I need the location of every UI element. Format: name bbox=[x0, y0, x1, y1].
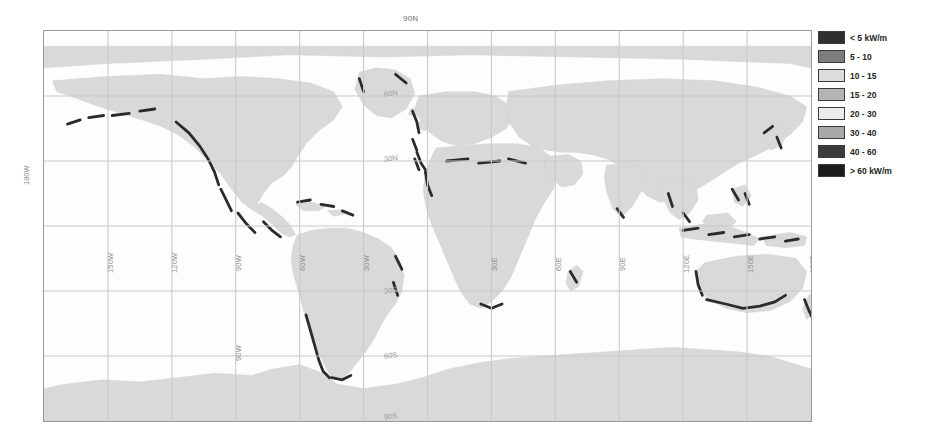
wave-energy-legend: < 5 kW/m 5 - 10 10 - 15 15 - 20 20 - 30 … bbox=[818, 29, 924, 179]
longitude-label-30e: 30E bbox=[490, 257, 499, 271]
wave-energy-world-map-figure: 90N 180W bbox=[0, 0, 928, 445]
longitude-label-120w: 120W bbox=[170, 253, 179, 273]
legend-label: 10 - 15 bbox=[850, 71, 876, 81]
longitude-label-90e: 90E bbox=[618, 257, 627, 271]
legend-label: 20 - 30 bbox=[850, 109, 876, 119]
legend-item: 15 - 20 bbox=[818, 86, 924, 103]
legend-swatch bbox=[818, 31, 845, 44]
legend-swatch bbox=[818, 164, 845, 177]
legend-item: 5 - 10 bbox=[818, 48, 924, 65]
legend-item: 20 - 30 bbox=[818, 105, 924, 122]
legend-item: 30 - 40 bbox=[818, 124, 924, 141]
world-map-svg[interactable] bbox=[44, 31, 811, 421]
legend-item: > 60 kW/m bbox=[818, 162, 924, 179]
legend-swatch bbox=[818, 50, 845, 63]
legend-label: < 5 kW/m bbox=[850, 33, 887, 43]
legend-swatch bbox=[818, 69, 845, 82]
legend-swatch bbox=[818, 145, 845, 158]
world-map-panel[interactable]: 150W 120W 90W 60W 30W 30E 60E 90E 120E 1… bbox=[43, 30, 812, 422]
legend-label: 30 - 40 bbox=[850, 128, 876, 138]
longitude-label-90w: 90W bbox=[234, 255, 243, 271]
longitude-label-30w: 30W bbox=[362, 255, 371, 271]
longitude-label-150w: 150W bbox=[106, 253, 115, 273]
legend-label: 15 - 20 bbox=[850, 90, 876, 100]
latitude-label-30n: 30N bbox=[384, 153, 399, 163]
legend-label: 5 - 10 bbox=[850, 52, 872, 62]
legend-label: > 60 kW/m bbox=[850, 166, 892, 176]
longitude-label-150e: 150E bbox=[746, 255, 755, 273]
longitude-label-120e: 120E bbox=[682, 255, 691, 273]
legend-item: < 5 kW/m bbox=[818, 29, 924, 46]
longitude-label-60e: 60E bbox=[554, 257, 563, 271]
legend-item: 10 - 15 bbox=[818, 67, 924, 84]
latitude-label-90s: 90S bbox=[384, 411, 398, 421]
legend-swatch bbox=[818, 126, 845, 139]
longitude-label-90w-south: 90W bbox=[234, 345, 243, 361]
latitude-label-60s: 60S bbox=[384, 350, 398, 360]
legend-swatch bbox=[818, 107, 845, 120]
legend-label: 40 - 60 bbox=[850, 147, 876, 157]
longitude-label-60w: 60W bbox=[298, 255, 307, 271]
legend-swatch bbox=[818, 88, 845, 101]
legend-item: 40 - 60 bbox=[818, 143, 924, 160]
latitude-label-30s: 30S bbox=[384, 285, 398, 295]
longitude-label-180e: 180E bbox=[808, 255, 812, 273]
map-top-latitude-label: 90N bbox=[403, 14, 418, 23]
longitude-label-180w-outer: 180W bbox=[22, 165, 31, 185]
latitude-label-60n: 60N bbox=[384, 88, 399, 98]
